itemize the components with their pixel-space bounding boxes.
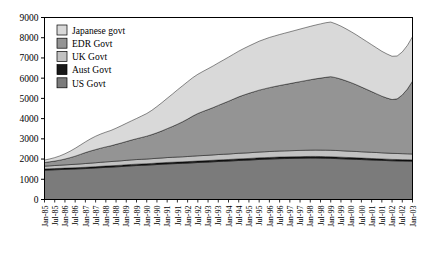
stacked-area-chart: 0100020003000400050006000700080009000 Ja… (0, 0, 435, 255)
y-axis-ticks: 0100020003000400050006000700080009000 (20, 13, 45, 205)
x-tick-label: Jul-85 (51, 206, 60, 226)
x-tick-label: Jul-00 (358, 206, 367, 226)
y-tick-label: 0 (34, 195, 39, 205)
legend-swatch-aust-govt (57, 65, 67, 75)
legend-swatch-edr-govt (57, 38, 67, 48)
legend-swatch-uk-govt (57, 51, 67, 61)
x-tick-label: Jan-93 (204, 206, 213, 227)
x-tick-label: Jan-89 (122, 206, 131, 227)
y-tick-label: 2000 (20, 154, 39, 164)
y-tick-label: 7000 (20, 53, 39, 63)
x-tick-label: Jul-02 (398, 206, 407, 226)
x-tick-label: Jan-92 (184, 206, 193, 227)
x-tick-label: Jan-98 (306, 206, 315, 227)
chart-legend: Japanese govtEDR GovtUK GovtAust GovtUS … (57, 25, 125, 89)
legend-label-uk-govt: UK Govt (72, 52, 107, 62)
x-tick-label: Jul-97 (296, 206, 305, 226)
x-tick-label: Jul-87 (92, 206, 101, 226)
x-tick-label: Jan-94 (225, 206, 234, 227)
legend-swatch-japanese-govt (57, 25, 67, 35)
x-tick-label: Jul-86 (71, 206, 80, 226)
x-tick-label: Jul-92 (194, 206, 203, 226)
x-tick-label: Jul-89 (133, 206, 142, 226)
x-tick-label: Jan-96 (266, 206, 275, 227)
legend-swatch-us-govt (57, 78, 67, 88)
y-tick-label: 3000 (20, 134, 39, 144)
x-tick-label: Jul-01 (378, 206, 387, 226)
y-tick-label: 8000 (20, 33, 39, 43)
x-tick-label: Jul-96 (276, 206, 285, 226)
y-tick-label: 1000 (20, 175, 39, 185)
x-tick-label: Jul-91 (174, 206, 183, 226)
x-tick-label: Jan-03 (409, 206, 418, 227)
y-tick-label: 4000 (20, 114, 39, 124)
chart-canvas: 0100020003000400050006000700080009000 Ja… (0, 0, 435, 255)
x-tick-label: Jan-87 (82, 206, 91, 227)
legend-label-us-govt: US Govt (72, 79, 106, 89)
x-tick-label: Jul-88 (112, 206, 121, 226)
x-tick-label: Jan-86 (61, 206, 70, 227)
x-tick-label: Jan-97 (286, 206, 295, 227)
y-tick-label: 9000 (20, 13, 39, 23)
x-tick-label: Jul-90 (153, 206, 162, 226)
x-axis-ticks: Jan-85Jul-85Jan-86Jul-86Jan-87Jul-87Jan-… (41, 200, 418, 227)
x-tick-label: Jan-00 (347, 206, 356, 227)
legend-label-edr-govt: EDR Govt (72, 39, 113, 49)
x-tick-label: Jan-99 (327, 206, 336, 227)
legend-label-japanese-govt: Japanese govt (72, 26, 125, 36)
x-tick-label: Jan-90 (143, 206, 152, 227)
x-tick-label: Jul-98 (317, 206, 326, 226)
x-tick-label: Jan-02 (388, 206, 397, 227)
x-tick-label: Jul-94 (235, 206, 244, 226)
x-tick-label: Jul-95 (255, 206, 264, 226)
y-tick-label: 6000 (20, 74, 39, 84)
x-tick-label: Jul-93 (214, 206, 223, 226)
x-tick-label: Jan-91 (163, 206, 172, 227)
y-tick-label: 5000 (20, 94, 39, 104)
legend-label-aust-govt: Aust Govt (72, 65, 112, 75)
x-tick-label: Jan-95 (245, 206, 254, 227)
x-tick-label: Jan-88 (102, 206, 111, 227)
x-tick-label: Jan-85 (41, 206, 50, 227)
x-tick-label: Jan-01 (368, 206, 377, 227)
x-tick-label: Jul-99 (337, 206, 346, 226)
